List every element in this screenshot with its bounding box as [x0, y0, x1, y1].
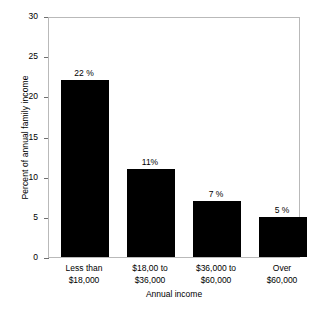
y-tick-label: 5 [33, 212, 38, 222]
y-tick-label: 20 [29, 91, 38, 101]
y-tick-label: 10 [29, 172, 38, 182]
x-category-line1: $36,000 to [196, 263, 236, 273]
x-axis-title: Annual income [48, 289, 300, 299]
x-category-label: Over$60,000 [242, 263, 318, 286]
bar-chart-figure: Percent of annual family income 30252015… [0, 0, 318, 310]
x-category-line1: $18,00 to [132, 263, 167, 273]
y-tick-label: 0 [33, 252, 38, 262]
y-tick-mark [44, 258, 49, 259]
bar-value-label: 5 % [252, 205, 312, 215]
bar[interactable] [259, 217, 307, 257]
bar[interactable] [193, 201, 241, 257]
x-category-line1: Less than [66, 263, 103, 273]
bar[interactable] [127, 169, 175, 257]
y-tick-label: 30 [29, 11, 38, 21]
bar-value-label: 22 % [54, 68, 114, 78]
plot-area [48, 17, 300, 258]
x-category-line1: Over [273, 263, 291, 273]
bar-value-label: 7 % [186, 189, 246, 199]
bar[interactable] [61, 80, 109, 257]
y-tick-label: 15 [29, 132, 38, 142]
x-category-line2: $60,000 [242, 275, 318, 287]
bar-value-label: 11% [120, 157, 180, 167]
y-tick-label: 25 [29, 51, 38, 61]
